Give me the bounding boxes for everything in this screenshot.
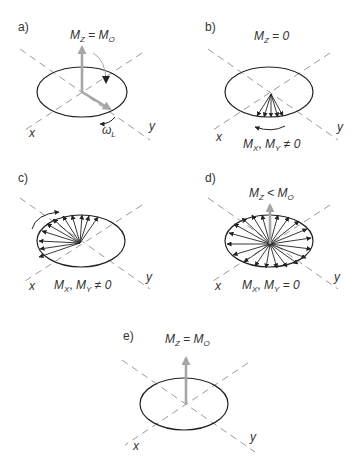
spin-vectors <box>39 215 98 257</box>
panel-label: a) <box>18 20 29 34</box>
y-axis <box>20 198 150 289</box>
y-axis-label: y <box>145 270 153 284</box>
mxy-label: MX, MY = 0 <box>242 278 300 294</box>
x-axis-label: x <box>214 279 222 293</box>
mxy-label: MX, MY ≠ 0 <box>54 278 112 294</box>
panel-b: b) MZ = 0 x y MX, MY ≠ 0 <box>205 20 344 153</box>
y-axis <box>208 49 338 140</box>
mri-relaxation-diagram: a) MZ = MO ωL x y b) MZ = 0 x y <box>0 0 357 464</box>
y-axis-label: y <box>333 270 341 284</box>
y-axis-label: y <box>336 120 344 134</box>
rotation-arrow-icon <box>255 126 285 130</box>
y-axis-label: y <box>249 430 257 444</box>
panel-e: e) MZ = MO x y <box>122 329 257 453</box>
spin-vectors <box>257 94 283 117</box>
panel-label: e) <box>123 329 134 343</box>
mz-label: MZ = MO <box>165 332 210 348</box>
transverse-plane-ellipse <box>140 378 228 430</box>
x-axis-label: x <box>132 439 140 453</box>
x-axis-label: x <box>215 130 223 144</box>
panel-label: b) <box>205 20 216 34</box>
panel-d: d) MZ < MO <box>205 171 341 294</box>
y-axis-label: y <box>148 119 156 133</box>
y-axis <box>122 360 255 452</box>
panel-label: d) <box>205 171 216 185</box>
mz-label: MZ = MO <box>70 28 115 44</box>
omega-label: ωL <box>102 123 116 139</box>
tipped-vector-arrow <box>82 92 110 109</box>
x-axis-label: x <box>28 126 36 140</box>
mz-label: MZ < MO <box>249 186 294 202</box>
mxy-label: MX, MY ≠ 0 <box>243 137 301 153</box>
mz-label: MZ = 0 <box>254 29 290 45</box>
x-axis-label: x <box>28 279 36 293</box>
panel-a: a) MZ = MO ωL x y <box>18 20 156 140</box>
panel-c: c) x y MX, MY ≠ 0 <box>18 171 153 294</box>
panel-label: c) <box>18 171 28 185</box>
